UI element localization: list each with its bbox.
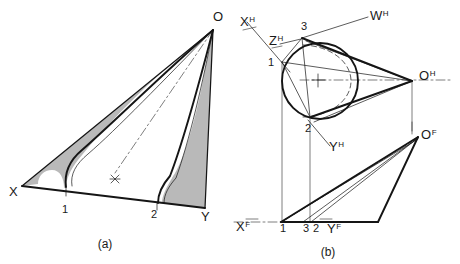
chord-1-2 [282, 62, 310, 117]
projectors [282, 62, 412, 222]
label-point-1-f: 1 [280, 222, 286, 234]
figure-root: OX12YXHZHWHYHOH312XF132YFOF (a) (b) [0, 0, 460, 264]
technical-drawing-canvas: OX12YXHZHWHYHOH312XF132YFOF (a) (b) [0, 0, 460, 264]
center-mark-h [312, 74, 325, 87]
panel-b [234, 17, 452, 222]
element-3-oh-upper2 [306, 41, 412, 81]
base-circle-h [282, 43, 358, 119]
label-axis-w-h: WH [370, 8, 389, 23]
label-axis-y-f: YF [327, 221, 341, 236]
element-2-oh-lower2 [314, 81, 412, 122]
label-point-3-h: 3 [301, 20, 307, 32]
label-vertex-x: X [9, 184, 18, 199]
label-vertex-o-f: OF [421, 127, 437, 142]
panel-a [22, 30, 213, 210]
element-1-oh [282, 62, 412, 81]
label-point-2-f: 2 [313, 222, 319, 234]
label-axis-x-h: XH [240, 14, 255, 29]
front-view-f [234, 122, 418, 222]
label-point-2-h: 2 [305, 122, 311, 134]
axis-line-y-h [308, 120, 330, 146]
label-point-1: 1 [62, 203, 68, 215]
label-axis-z-h: ZH [269, 33, 283, 48]
label-point-2: 2 [151, 208, 157, 220]
label-point-1-h: 1 [268, 56, 274, 68]
label-axis-x-f: XF [236, 219, 250, 234]
center-star-mark [110, 175, 120, 183]
label-vertex-o-h: OH [419, 68, 436, 83]
element-2-oh-lower [311, 81, 412, 117]
caption-b: (b) [321, 245, 336, 259]
label-axis-y-h: YH [329, 139, 344, 154]
caption-a: (a) [98, 237, 113, 251]
label-layer: OX12YXHZHWHYHOH312XF132YFOF [9, 8, 437, 236]
label-point-3-f: 3 [303, 222, 309, 234]
axis-line-w-h [302, 17, 368, 38]
label-vertex-o: O [213, 9, 223, 24]
element-3f-of [303, 138, 418, 222]
label-vertex-y: Y [201, 209, 210, 224]
element-2f-of [311, 138, 418, 222]
chord-3-2 [302, 38, 310, 117]
